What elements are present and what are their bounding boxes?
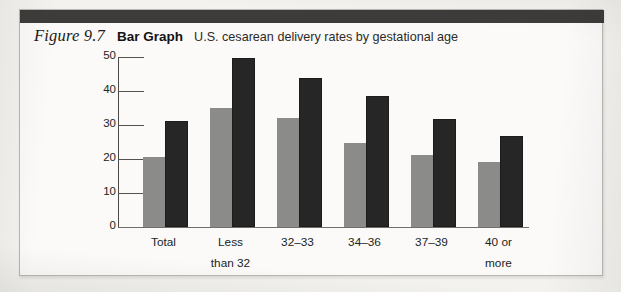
x-category-label-line1: 40 or [451,232,547,253]
bar [500,136,523,227]
bar [433,119,456,227]
y-tick-label: 50 [90,49,116,61]
figure-number: Figure 9.7 [34,26,105,45]
bar-group [143,57,186,227]
bar [277,118,300,227]
bar [478,162,501,227]
x-axis-category-labels: TotalLessthan 3232–3334–3637–3940 ormore [118,232,558,276]
figure-kind-label: Bar Graph [117,29,183,44]
figure-header-band [20,10,604,23]
bar [165,121,188,227]
chart-plot-area: 01020304050 [118,57,548,227]
y-tick-0: 0 [86,227,161,228]
y-tick-label: 10 [90,185,116,197]
bar-group [478,57,521,227]
bar-group [344,57,387,227]
bar-groups [119,57,529,227]
bar [210,108,233,227]
scanned-page: Figure 9.7Bar GraphU.S. cesarean deliver… [0,0,621,292]
bar-group [277,57,320,227]
figure-description: U.S. cesarean delivery rates by gestatio… [194,30,458,44]
y-tick-label: 20 [90,151,116,163]
figure-caption: Figure 9.7Bar GraphU.S. cesarean deliver… [34,26,594,48]
bar [411,155,434,227]
x-axis-line [118,227,529,228]
x-category-label-line2: than 32 [183,253,279,274]
y-tick-label: 0 [90,219,116,231]
bar [143,157,166,227]
bar [366,96,389,227]
bar-group [210,57,253,227]
y-tick-label: 40 [90,83,116,95]
figure-box: Figure 9.7Bar GraphU.S. cesarean deliver… [19,9,603,276]
bar [344,143,367,227]
bar [299,78,322,227]
x-category-label-line2: more [451,253,547,274]
y-tick-label: 30 [90,117,116,129]
x-category-label: 40 ormore [451,232,547,274]
bar-group [411,57,454,227]
bar [232,58,255,227]
